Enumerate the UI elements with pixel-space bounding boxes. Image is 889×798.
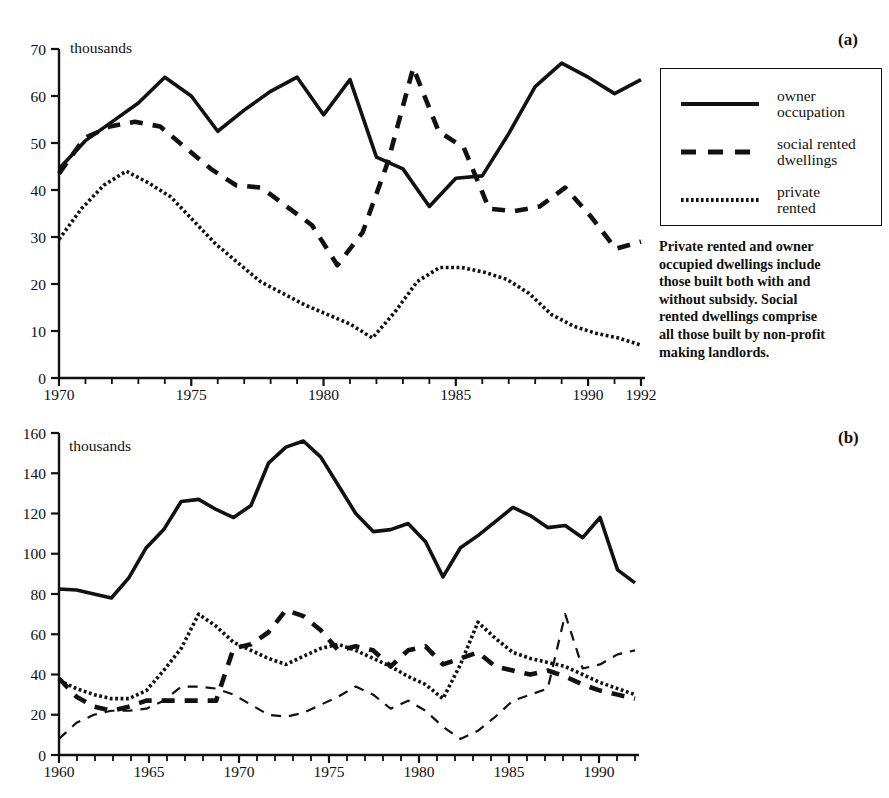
svg-text:80: 80 [31, 586, 47, 603]
svg-text:10: 10 [31, 323, 47, 340]
svg-text:70: 70 [31, 41, 47, 58]
svg-text:1965: 1965 [134, 763, 165, 780]
legend-item-owner-occupation: owner occupation [661, 81, 881, 127]
svg-text:1980: 1980 [404, 763, 435, 780]
svg-text:1975: 1975 [314, 763, 345, 780]
svg-text:100: 100 [23, 545, 47, 562]
legend-swatch-solid-icon [679, 96, 761, 112]
svg-text:1980: 1980 [308, 386, 339, 400]
chart-panel-b: 0204060801001201401601960196519701975198… [0, 400, 889, 798]
svg-text:60: 60 [31, 88, 47, 105]
legend-item-private-rented: private rented [661, 177, 881, 223]
svg-text:1970: 1970 [44, 386, 75, 400]
chart-a-legend: owner occupation social rented dwellings… [660, 68, 882, 226]
panel-a-letter: (a) [838, 30, 858, 50]
svg-text:160: 160 [23, 425, 47, 442]
chart-a-note: Private rented and owner occupied dwelli… [659, 238, 889, 361]
svg-text:140: 140 [23, 465, 47, 482]
panel-b-letter: (b) [838, 428, 859, 448]
svg-text:60: 60 [31, 626, 47, 643]
chart-panel-a: 010203040506070197019751980198519901992 … [0, 0, 889, 400]
svg-text:30: 30 [31, 229, 47, 246]
panel-b-units-label: thousands [69, 437, 131, 455]
svg-text:120: 120 [23, 505, 47, 522]
svg-text:1985: 1985 [494, 763, 525, 780]
svg-text:0: 0 [38, 747, 46, 764]
legend-swatch-dotted-icon [679, 192, 761, 208]
svg-text:1975: 1975 [176, 386, 207, 400]
legend-item-social-rented-dwellings: social rented dwellings [661, 129, 881, 175]
svg-text:40: 40 [31, 666, 47, 683]
svg-text:1990: 1990 [573, 386, 604, 400]
legend-label-social-rented-dwellings: social rented dwellings [777, 136, 856, 169]
legend-swatch-dashed-icon [679, 144, 761, 160]
svg-text:1985: 1985 [440, 386, 471, 400]
svg-text:1960: 1960 [44, 763, 75, 780]
svg-text:40: 40 [31, 182, 47, 199]
legend-label-private-rented: private rented [777, 184, 820, 217]
svg-text:1990: 1990 [584, 763, 615, 780]
svg-text:0: 0 [38, 370, 46, 387]
svg-text:1970: 1970 [224, 763, 255, 780]
svg-text:50: 50 [31, 135, 47, 152]
panel-a-units-label: thousands [70, 39, 132, 57]
svg-text:20: 20 [31, 706, 47, 723]
chart-b-plot: 0204060801001201401601960196519701975198… [0, 400, 889, 798]
svg-text:1992: 1992 [626, 386, 657, 400]
svg-text:20: 20 [31, 276, 47, 293]
legend-label-owner-occupation: owner occupation [777, 88, 845, 121]
